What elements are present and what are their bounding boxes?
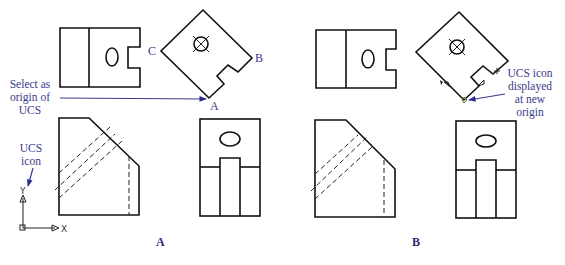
panel-b-caption: B [412,235,420,249]
new-origin-callout: UCS icon displayed at new origin [469,67,553,119]
svg-text:icon: icon [21,155,41,167]
point-label-c: C [148,44,156,58]
svg-text:UCS: UCS [20,142,42,154]
svg-text:UCS icon: UCS icon [507,67,552,79]
point-label-a: A [210,99,219,113]
ucs-axes-icon: Y X [19,186,67,234]
ucs-callout-arrow [28,168,33,186]
panel-a-side-view [55,118,139,215]
panel-a-caption: A [156,235,165,249]
panel-b-side-view [311,120,395,217]
ucs-icon-callout: UCS icon [20,142,42,186]
panel-a: C B A Select as origin of UCS [10,10,263,249]
panel-b-right-view [456,121,516,218]
svg-text:UCS: UCS [19,104,41,116]
callout-arrow [60,98,206,99]
svg-text:displayed: displayed [508,80,552,93]
panel-b-top-view [316,30,396,88]
panel-a-top-view [60,28,140,87]
panel-b-rotated-view [416,12,508,103]
multiview-drawing: C B A Select as origin of UCS [0,0,565,265]
panel-a-right-view [200,119,260,216]
svg-text:origin: origin [516,106,544,119]
select-origin-callout: Select as origin of UCS [10,78,206,116]
panel-a-rotated-view: C B A [148,10,263,113]
new-origin-arrow [469,94,505,100]
y-axis-label: Y [19,186,26,196]
x-axis-label: X [61,224,67,234]
svg-text:Select as: Select as [10,78,51,90]
svg-text:origin of: origin of [10,91,50,104]
svg-text:at new: at new [515,93,546,105]
panel-b: UCS icon displayed at new origin B [311,12,553,249]
point-label-b: B [255,51,263,65]
